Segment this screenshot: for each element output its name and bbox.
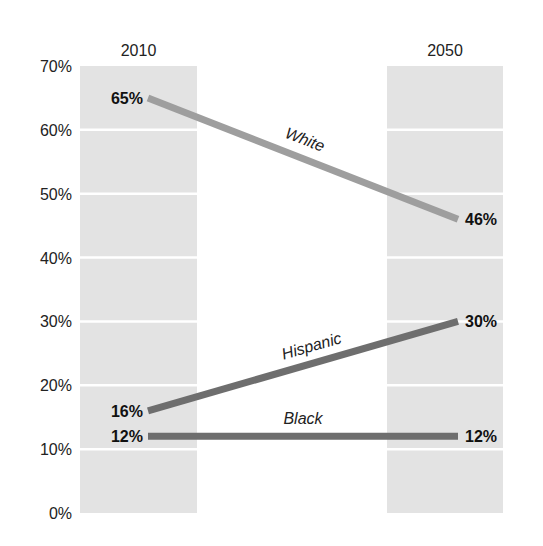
value-label-2010-white: 65% [111, 90, 143, 107]
column-band-2010 [80, 66, 197, 513]
y-tick-label: 60% [40, 122, 72, 139]
y-tick-label: 20% [40, 377, 72, 394]
y-tick-label: 0% [49, 505, 72, 522]
year-label: 2010 [121, 42, 157, 59]
year-label: 2050 [427, 42, 463, 59]
value-label-2010-black: 12% [111, 428, 143, 445]
column-band-2050 [387, 66, 503, 513]
y-tick-label: 70% [40, 58, 72, 75]
y-tick-label: 50% [40, 186, 72, 203]
slope-chart: 0%10%20%30%40%50%60%70% 20102050 65%46%W… [0, 0, 543, 546]
y-tick-label: 40% [40, 250, 72, 267]
value-label-2010-hispanic: 16% [111, 403, 143, 420]
value-label-2050-black: 12% [465, 428, 497, 445]
value-label-2050-white: 46% [465, 211, 497, 228]
x-axis-year-labels: 20102050 [121, 42, 463, 59]
value-label-2050-hispanic: 30% [465, 313, 497, 330]
y-tick-label: 30% [40, 313, 72, 330]
y-tick-label: 10% [40, 441, 72, 458]
series-label-black: Black [283, 410, 323, 427]
y-axis: 0%10%20%30%40%50%60%70% [40, 58, 72, 522]
